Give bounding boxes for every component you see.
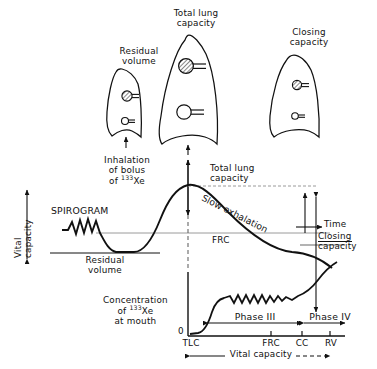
axis-tick-tlc: TLC — [182, 339, 199, 349]
spirogram-title: SPIROGRAM — [51, 206, 109, 216]
time-axis-label: Time — [324, 220, 346, 230]
spirogram-closing-capacity-label: Closing capacity — [318, 232, 357, 251]
figure-canvas: Residual volume Total lung capacity Clos… — [0, 0, 377, 369]
axis-tick-rv: RV — [325, 339, 337, 349]
concentration-axis-ticks — [271, 331, 330, 336]
lung-residual-volume — [107, 69, 142, 137]
alveolus-shaded-icon — [292, 80, 309, 89]
lung-closing-capacity — [270, 55, 319, 137]
phase3-label: Phase III — [235, 312, 276, 322]
concentration-y-axis-label: Concentration of 133Xe at mouth — [103, 296, 168, 326]
alveolus-shaded-icon — [179, 59, 206, 74]
spirogram-y-axis-label: Vital capacity — [14, 219, 33, 258]
vital-capacity-span-label: Vital capacity — [230, 350, 292, 360]
lung-label-residual-volume: Residual volume — [120, 47, 159, 66]
alveolus-open-icon — [292, 113, 305, 120]
spirogram-residual-volume-label: Residual volume — [86, 256, 125, 275]
concentration-axes — [188, 272, 345, 336]
spirogram-tlc-label: Total lung capacity — [210, 164, 255, 183]
alveolus-shaded-icon — [122, 91, 139, 101]
frc-label: FRC — [212, 236, 229, 246]
time-axis-arrow — [296, 193, 322, 233]
alveolus-open-icon — [122, 118, 136, 125]
lung-total-lung-capacity — [159, 35, 217, 144]
lung-label-closing-capacity: Closing capacity — [290, 28, 329, 47]
axis-tick-cc: CC — [296, 339, 309, 349]
alveolus-open-icon — [177, 105, 204, 119]
axis-tick-frc: FRC — [262, 339, 279, 349]
lung-label-total-lung-capacity: Total lung capacity — [174, 9, 219, 28]
phase4-label: Phase IV — [309, 312, 350, 322]
bolus-inhalation-label: Inhalation of bolus of 133Xe — [104, 156, 150, 186]
concentration-zero-label: 0 — [178, 327, 184, 337]
